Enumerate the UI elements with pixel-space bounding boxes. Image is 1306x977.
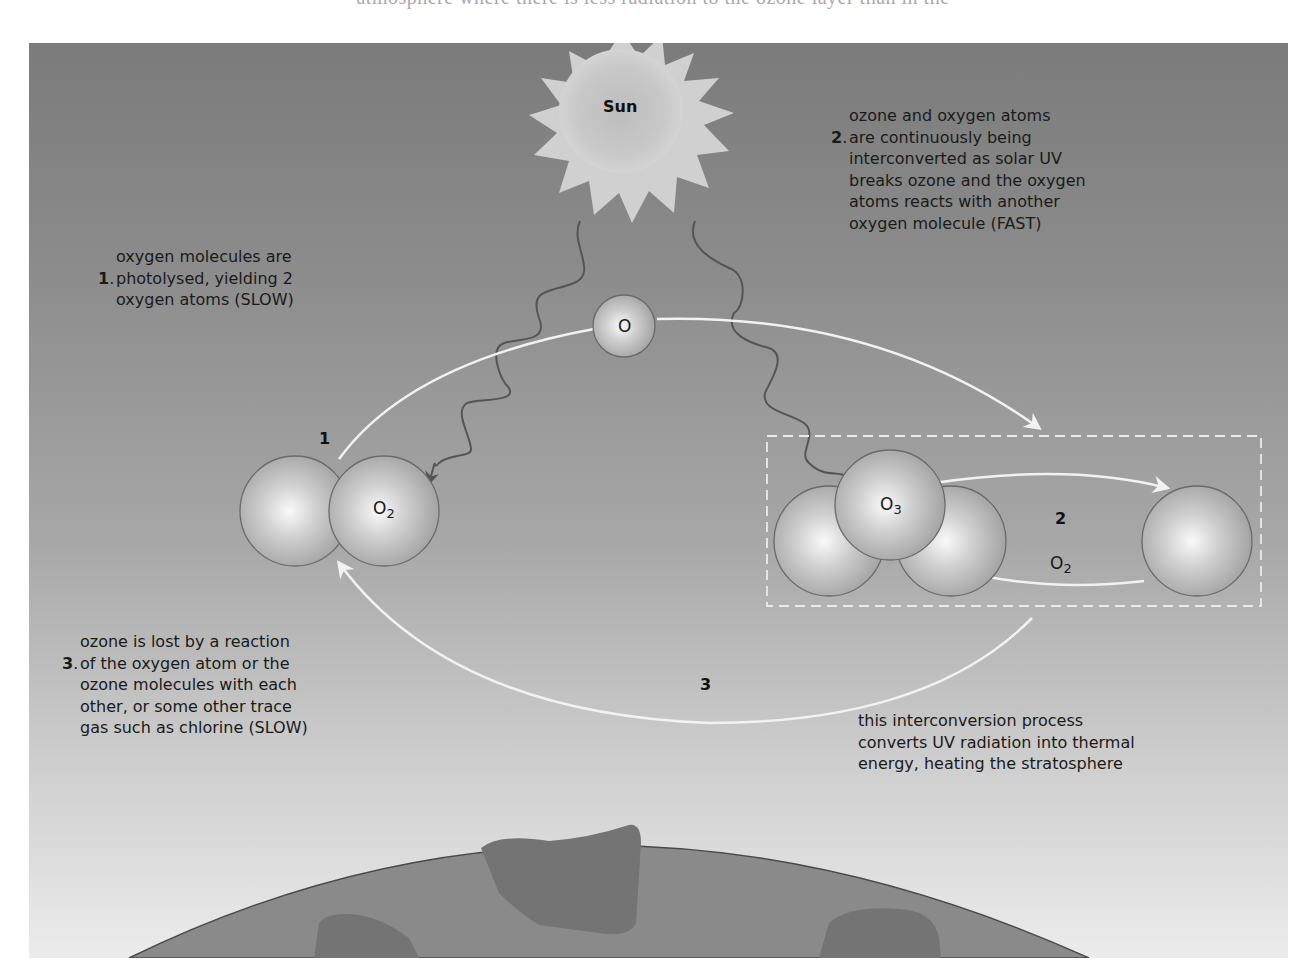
arrow-o2-to-o — [339, 329, 594, 459]
note-number: 2 — [831, 128, 842, 147]
oxygen-atom-label: O — [618, 316, 631, 336]
uv-ray-right — [693, 221, 877, 492]
summary-note: this interconversion process converts UV… — [858, 710, 1178, 775]
note-step-3: 3. ozone is lost by a reaction of the ox… — [62, 631, 78, 696]
note-step-1: 1. oxygen molecules are photolysed, yiel… — [98, 246, 114, 311]
arrow-o-to-box — [657, 319, 1039, 428]
ozone-cycle-diagram: Sun O O2 O3 O2 1 2 3 1. oxygen molecules… — [29, 43, 1288, 958]
cut-off-caption-text: atmosphere where there is less radiation… — [0, 0, 1306, 9]
note-step-2: 2. ozone and oxygen atoms are continuous… — [831, 105, 847, 170]
earth-illustration — [129, 825, 1089, 958]
step-3-marker: 3 — [700, 675, 711, 694]
step-2-marker: 2 — [1055, 509, 1066, 528]
o3-molecule-label: O3 — [880, 494, 902, 517]
note-number: 3 — [62, 654, 73, 673]
arrow-o3-to-o — [934, 474, 1167, 488]
o2-molecule-label: O2 — [373, 498, 395, 521]
uv-ray-left — [429, 221, 584, 483]
note-text: ozone and oxygen atoms are continuously … — [849, 105, 1149, 234]
o2-product-label: O2 — [1050, 553, 1072, 576]
oxygen-atom-product — [1142, 486, 1252, 596]
note-number: 1 — [98, 269, 109, 288]
sun-icon — [529, 43, 734, 223]
o3-molecule — [774, 450, 1006, 596]
o2-molecule — [240, 456, 439, 566]
step-1-marker: 1 — [319, 429, 330, 448]
note-text: ozone is lost by a reaction of the oxyge… — [80, 631, 380, 739]
sun-label: Sun — [603, 97, 637, 116]
note-text: oxygen molecules are photolysed, yieldin… — [116, 246, 376, 311]
